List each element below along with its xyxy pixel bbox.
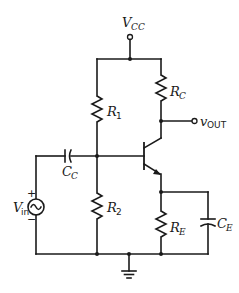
svg-text:OUT: OUT bbox=[207, 120, 227, 130]
bottom-rail bbox=[36, 252, 208, 256]
svg-text:in: in bbox=[21, 207, 29, 217]
svg-text:E: E bbox=[178, 227, 186, 237]
base-wire bbox=[36, 154, 144, 158]
resistor-rc: R C bbox=[156, 59, 186, 121]
npn-transistor bbox=[144, 121, 161, 192]
svg-text:+: + bbox=[27, 187, 36, 200]
svg-text:E: E bbox=[225, 223, 233, 233]
ground-icon bbox=[122, 254, 136, 278]
svg-text:1: 1 bbox=[116, 111, 122, 121]
svg-text:C: C bbox=[71, 171, 78, 181]
capacitor-ce: C E bbox=[201, 192, 233, 254]
svg-text:C: C bbox=[179, 91, 186, 101]
resistor-r1: R 1 bbox=[92, 59, 122, 156]
circuit-schematic: V CC R 1 R C v OUT bbox=[0, 0, 239, 293]
top-rail bbox=[97, 57, 161, 61]
resistor-r2: R 2 bbox=[92, 156, 122, 254]
capacitor-cc: C C bbox=[62, 150, 78, 181]
output-terminal: v OUT bbox=[159, 114, 227, 130]
svg-text:CC: CC bbox=[131, 22, 145, 32]
ac-source-vin: + − V in bbox=[13, 156, 44, 254]
vcc-terminal: V CC bbox=[122, 15, 145, 59]
svg-text:2: 2 bbox=[116, 207, 122, 217]
resistor-re: R E bbox=[156, 192, 186, 254]
emitter-network bbox=[159, 190, 208, 194]
